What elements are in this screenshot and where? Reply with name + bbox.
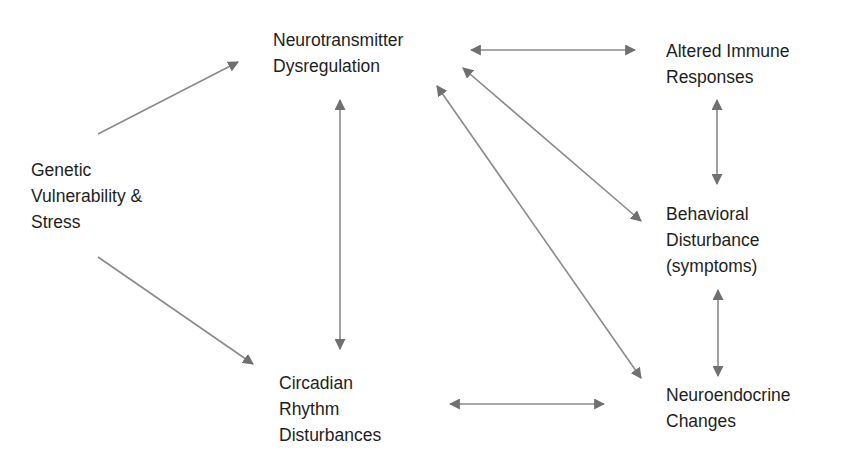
edge-genetic-to-circadian (98, 257, 253, 364)
node-label-line: (symptoms) (666, 253, 759, 279)
edge-genetic-to-neurotransmitter (98, 62, 238, 134)
node-label-line: Disturbance (666, 227, 759, 253)
edge-neurotransmitter-behavioral (463, 68, 641, 221)
node-label-line: Altered Immune (666, 38, 790, 64)
node-altered-immune-responses: Altered Immune Responses (666, 38, 790, 90)
node-genetic-vulnerability-stress: Genetic Vulnerability & Stress (31, 157, 142, 235)
node-label-line: Changes (666, 408, 791, 434)
node-label-line: Circadian (279, 370, 381, 396)
node-label-line: Responses (666, 64, 790, 90)
node-neuroendocrine-changes: Neuroendocrine Changes (666, 382, 791, 434)
node-neurotransmitter-dysregulation: Neurotransmitter Dysregulation (273, 27, 403, 79)
node-label-line: Stress (31, 209, 142, 235)
node-label-line: Neuroendocrine (666, 382, 791, 408)
node-label-line: Disturbances (279, 422, 381, 448)
node-behavioral-disturbance: Behavioral Disturbance (symptoms) (666, 201, 759, 279)
edge-neurotransmitter-neuroendocrine (437, 86, 641, 378)
node-label-line: Behavioral (666, 201, 759, 227)
node-label-line: Dysregulation (273, 53, 403, 79)
node-label-line: Neurotransmitter (273, 27, 403, 53)
node-label-line: Vulnerability & (31, 183, 142, 209)
node-label-line: Genetic (31, 157, 142, 183)
node-circadian-rhythm-disturbances: Circadian Rhythm Disturbances (279, 370, 381, 448)
node-label-line: Rhythm (279, 396, 381, 422)
